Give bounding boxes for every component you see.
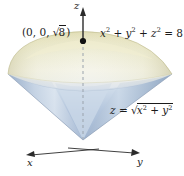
sphere-eq-plus-1: + <box>110 27 125 39</box>
sphere-eq-rhs: 8 <box>176 27 183 39</box>
figure-container: (0, 0, √8) x2 + y2 + z2 = 8 z = √x2 + y2… <box>0 0 184 176</box>
cone-eq-radicand: x2 + y2 <box>137 103 174 116</box>
sphere-eq-plus-2: + <box>136 27 151 39</box>
z-axis-arrow <box>80 7 86 16</box>
sphere-eq-equals: = <box>161 27 176 39</box>
cone-eq-plus: + <box>147 104 162 116</box>
x-axis-label: x <box>27 158 33 168</box>
y-axis-label: y <box>137 157 143 167</box>
point-marker <box>80 38 86 44</box>
z-axis-label: z <box>74 1 79 11</box>
point-label: (0, 0, √8) <box>22 27 70 38</box>
point-label-suffix: ) <box>66 26 70 38</box>
cone-eq-equals: = <box>116 104 131 116</box>
sphere-equation: x2 + y2 + z2 = 8 <box>100 27 183 38</box>
spherical-cap <box>8 32 172 84</box>
point-label-prefix: (0, 0, <box>22 26 53 38</box>
cone-eq-y-exp: 2 <box>168 103 172 111</box>
cone-equation: z = √x2 + y2 <box>110 104 173 115</box>
